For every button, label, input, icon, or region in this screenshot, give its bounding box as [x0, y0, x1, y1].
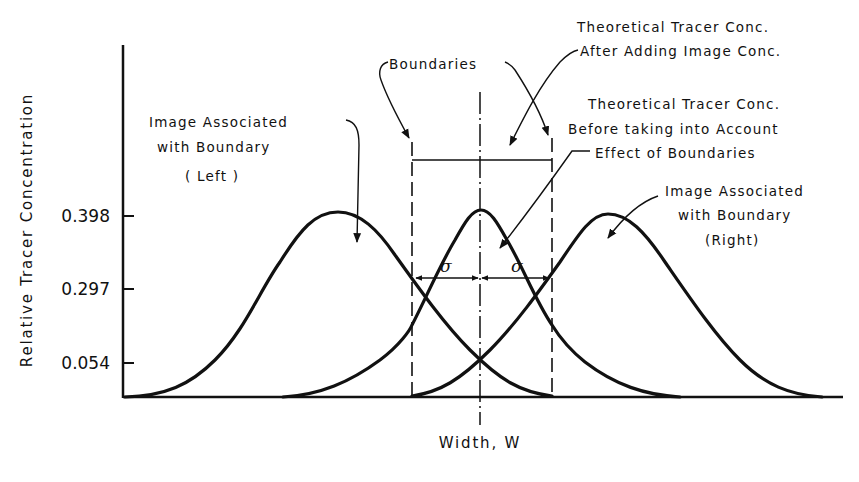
before-taking-label-line3: Effect of Boundaries: [595, 145, 756, 161]
y-tick-label: 0.398: [61, 206, 110, 226]
before-taking-label-line1: Theoretical Tracer Conc.: [587, 96, 780, 112]
curve-image-left: [125, 212, 552, 397]
sigma-right-label: σ: [511, 256, 523, 276]
y-tick-label: 0.297: [61, 279, 110, 299]
sigma-left-label: σ: [440, 256, 452, 276]
image-left-label-line1: Image Associated: [149, 114, 288, 130]
image-left-label-line3: ( Left ): [185, 168, 239, 184]
image-right-label-line2: with Boundary: [678, 207, 792, 223]
after-adding-label-line1: Theoretical Tracer Conc.: [576, 19, 769, 35]
image-right-label-line1: Image Associated: [665, 183, 804, 199]
curve-image-right: [412, 214, 822, 397]
boundaries-label: Boundaries: [389, 56, 477, 72]
tracer-concentration-diagram: 0.398 0.297 0.054 Relative Tracer Concen…: [0, 0, 859, 482]
curve-theoretical-center: [283, 210, 680, 397]
y-tick-label: 0.054: [61, 353, 110, 373]
before-taking-label-line2: Before taking into Account: [568, 121, 779, 137]
image-left-arrow: [346, 120, 359, 242]
boundaries-arrow-right: [505, 62, 548, 135]
image-right-label-line3: (Right): [705, 232, 759, 248]
x-axis-title: Width, W: [439, 434, 521, 452]
y-axis-title: Relative Tracer Concentration: [18, 93, 36, 367]
before-taking-arrow: [500, 151, 590, 248]
image-right-arrow: [608, 196, 658, 238]
image-left-label-line2: with Boundary: [157, 139, 271, 155]
after-adding-label-line2: After Adding Image Conc.: [580, 43, 781, 59]
boundaries-arrow-left: [380, 62, 409, 138]
